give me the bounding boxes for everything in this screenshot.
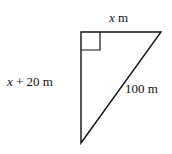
left-side-label: x + 20 m <box>7 74 53 90</box>
top-side-label: x m <box>109 10 128 26</box>
right-angle-marker <box>81 32 100 50</box>
hypotenuse-label: 100 m <box>125 81 158 97</box>
